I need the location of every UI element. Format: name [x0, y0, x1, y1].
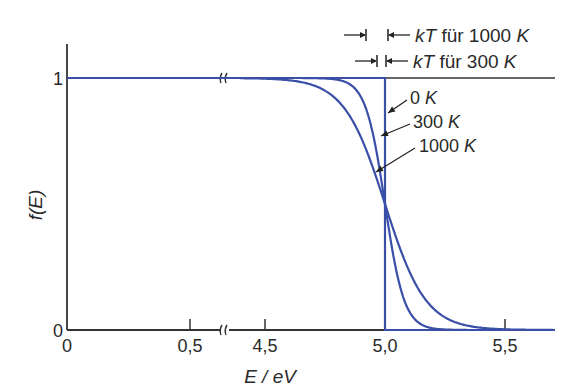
arrowhead-icon [360, 32, 366, 38]
x-tick-label: 4,5 [252, 336, 277, 356]
axes: 00,54,55,05,501 [53, 44, 555, 356]
x-tick-label: 5,0 [372, 336, 397, 356]
curve-300k [67, 78, 553, 330]
annotation-kt1000: kT für 1000 K [344, 25, 530, 46]
x-tick-label: 5,5 [492, 336, 517, 356]
y-axis-label: f(E) [25, 190, 46, 221]
annotation-kt300: kT für 300 K [355, 51, 518, 72]
curve-0k [67, 78, 555, 330]
arrowhead-icon [371, 58, 377, 64]
y-tick-label: 0 [53, 321, 63, 341]
arrowhead-icon [388, 107, 395, 113]
arrowhead-icon [376, 166, 384, 172]
annotations: 0 K300 K1000 KkT für 1000 KkT für 300 K [344, 25, 530, 172]
x-tick-label: 0 [62, 336, 72, 356]
curve-1000k [67, 78, 553, 330]
x-tick-label: 0,5 [177, 336, 202, 356]
curve-label-1000k: 1000 K [419, 136, 477, 156]
fermi-dirac-chart: 00,54,55,05,501 0 K300 K1000 KkT für 100… [0, 0, 571, 390]
x-axis-label: E / eV [244, 366, 298, 387]
y-tick-label: 1 [53, 69, 63, 89]
x-axis-break-marker [220, 324, 229, 336]
kt-label: kT für 300 K [413, 51, 518, 72]
curve-label-0k: 0 K [410, 88, 438, 108]
curve-label-300k: 300 K [413, 112, 461, 132]
curves [67, 78, 555, 330]
kt-label: kT für 1000 K [415, 25, 530, 46]
